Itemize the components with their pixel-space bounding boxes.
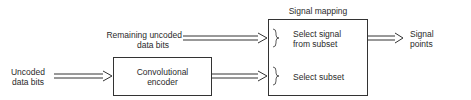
convolutional-encoder-block: Convolutional encoder xyxy=(113,57,212,96)
encoder-label: Convolutional encoder xyxy=(114,67,211,87)
arrow-encoder-to-mapper xyxy=(212,71,267,81)
connection-arrows xyxy=(0,0,471,100)
select-signal-label: Select signal from subset xyxy=(293,29,341,49)
signal-mapping-title: Signal mapping xyxy=(268,6,368,16)
remaining-bits-label: Remaining uncoded data bits xyxy=(100,30,182,50)
signal-points-label: Signal points xyxy=(410,29,434,49)
arrow-remaining-to-mapper xyxy=(183,33,267,43)
uncoded-bits-line1: Uncoded xyxy=(6,67,50,77)
select-subset-label: Select subset xyxy=(293,72,344,82)
uncoded-bits-label: Uncoded data bits xyxy=(6,67,50,87)
encoder-label-line1: Convolutional xyxy=(114,67,211,77)
arrow-mapper-to-output xyxy=(368,33,403,43)
remaining-bits-line1: Remaining uncoded xyxy=(100,30,182,40)
encoder-label-line2: encoder xyxy=(114,77,211,87)
signal-points-line2: points xyxy=(410,39,434,49)
signal-points-line1: Signal xyxy=(410,29,434,39)
remaining-bits-line2: data bits xyxy=(100,40,182,50)
arrow-input-to-encoder xyxy=(54,71,112,81)
uncoded-bits-line2: data bits xyxy=(6,77,50,87)
signal-mapping-block: Select signal from subset Select subset xyxy=(268,19,368,96)
select-signal-line2: from subset xyxy=(293,39,341,49)
select-signal-line1: Select signal xyxy=(293,29,341,39)
